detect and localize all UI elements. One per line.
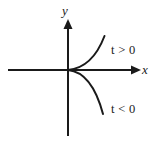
x-axis-arrowhead bbox=[131, 66, 141, 75]
curve-label-t-positive: t > 0 bbox=[111, 44, 136, 57]
curve-diagram: y x t > 0 t < 0 bbox=[0, 0, 156, 144]
x-axis-label: x bbox=[142, 63, 148, 76]
curve-lower-branch bbox=[68, 70, 103, 114]
curve-label-t-negative: t < 0 bbox=[111, 103, 136, 116]
curve-upper-branch bbox=[68, 36, 105, 70]
diagram-canvas bbox=[0, 0, 156, 144]
y-axis-arrowhead bbox=[64, 19, 73, 29]
y-axis-label: y bbox=[62, 4, 68, 17]
